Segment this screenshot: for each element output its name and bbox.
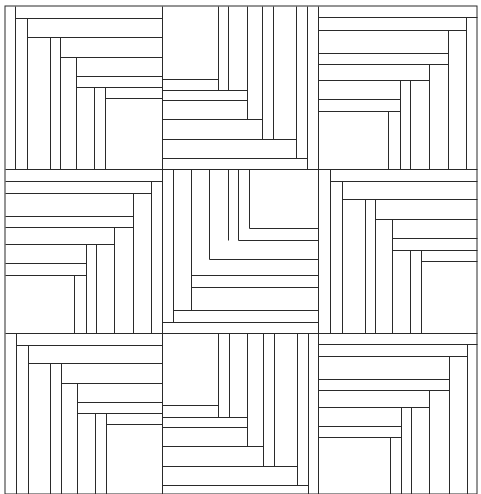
strip-lines [6, 7, 478, 494]
pattern-svg [0, 0, 481, 494]
quilt-pattern-diagram [0, 0, 481, 494]
